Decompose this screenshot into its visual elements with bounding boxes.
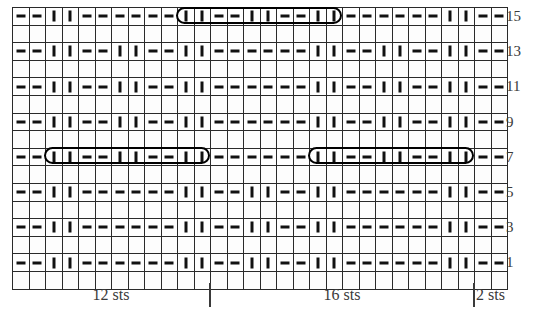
chart-cell[interactable]: [95, 254, 112, 272]
chart-cell[interactable]: [277, 236, 294, 254]
chart-cell[interactable]: [112, 95, 129, 113]
chart-cell[interactable]: [491, 60, 508, 78]
chart-cell[interactable]: [277, 183, 294, 201]
chart-cell[interactable]: [128, 219, 145, 237]
chart-cell[interactable]: [194, 95, 211, 113]
chart-cell[interactable]: [475, 236, 492, 254]
chart-cell[interactable]: [458, 43, 475, 61]
chart-cell[interactable]: [458, 236, 475, 254]
chart-cell[interactable]: [475, 8, 492, 26]
chart-cell[interactable]: [277, 8, 294, 26]
chart-cell[interactable]: [293, 25, 310, 43]
chart-cell[interactable]: [145, 78, 162, 96]
chart-cell[interactable]: [244, 166, 261, 184]
chart-cell[interactable]: [95, 183, 112, 201]
chart-cell[interactable]: [112, 183, 129, 201]
chart-cell[interactable]: [62, 131, 79, 149]
chart-cell[interactable]: [62, 271, 79, 289]
chart-cell[interactable]: [161, 271, 178, 289]
chart-cell[interactable]: [425, 148, 442, 166]
chart-cell[interactable]: [13, 43, 30, 61]
chart-cell[interactable]: [145, 60, 162, 78]
chart-cell[interactable]: [442, 254, 459, 272]
chart-cell[interactable]: [409, 148, 426, 166]
chart-cell[interactable]: [112, 131, 129, 149]
chart-cell[interactable]: [293, 78, 310, 96]
chart-cell[interactable]: [409, 25, 426, 43]
chart-cell[interactable]: [244, 219, 261, 237]
chart-cell[interactable]: [260, 219, 277, 237]
chart-cell[interactable]: [244, 60, 261, 78]
chart-cell[interactable]: [458, 60, 475, 78]
chart-cell[interactable]: [46, 183, 63, 201]
chart-cell[interactable]: [46, 113, 63, 131]
chart-cell[interactable]: [178, 8, 195, 26]
chart-cell[interactable]: [359, 219, 376, 237]
chart-cell[interactable]: [244, 271, 261, 289]
chart-cell[interactable]: [29, 95, 46, 113]
chart-cell[interactable]: [145, 219, 162, 237]
chart-cell[interactable]: [178, 271, 195, 289]
chart-cell[interactable]: [211, 166, 228, 184]
chart-cell[interactable]: [62, 43, 79, 61]
chart-cell[interactable]: [13, 219, 30, 237]
chart-cell[interactable]: [392, 131, 409, 149]
chart-cell[interactable]: [95, 60, 112, 78]
chart-cell[interactable]: [227, 60, 244, 78]
chart-cell[interactable]: [227, 271, 244, 289]
chart-cell[interactable]: [13, 78, 30, 96]
chart-cell[interactable]: [95, 219, 112, 237]
chart-cell[interactable]: [392, 78, 409, 96]
chart-cell[interactable]: [95, 25, 112, 43]
chart-cell[interactable]: [359, 148, 376, 166]
chart-cell[interactable]: [29, 25, 46, 43]
chart-cell[interactable]: [392, 236, 409, 254]
chart-cell[interactable]: [161, 95, 178, 113]
chart-cell[interactable]: [244, 113, 261, 131]
chart-cell[interactable]: [161, 60, 178, 78]
chart-cell[interactable]: [359, 271, 376, 289]
chart-cell[interactable]: [178, 166, 195, 184]
chart-cell[interactable]: [145, 25, 162, 43]
chart-cell[interactable]: [95, 236, 112, 254]
chart-cell[interactable]: [112, 219, 129, 237]
chart-cell[interactable]: [128, 131, 145, 149]
chart-cell[interactable]: [293, 60, 310, 78]
chart-cell[interactable]: [211, 201, 228, 219]
chart-cell[interactable]: [277, 131, 294, 149]
chart-cell[interactable]: [79, 25, 96, 43]
chart-cell[interactable]: [277, 254, 294, 272]
chart-cell[interactable]: [442, 8, 459, 26]
chart-cell[interactable]: [359, 78, 376, 96]
chart-cell[interactable]: [79, 201, 96, 219]
chart-cell[interactable]: [13, 131, 30, 149]
chart-cell[interactable]: [211, 113, 228, 131]
chart-cell[interactable]: [491, 131, 508, 149]
chart-cell[interactable]: [161, 131, 178, 149]
chart-cell[interactable]: [46, 254, 63, 272]
chart-cell[interactable]: [277, 201, 294, 219]
chart-cell[interactable]: [211, 78, 228, 96]
chart-cell[interactable]: [13, 236, 30, 254]
chart-cell[interactable]: [409, 78, 426, 96]
chart-cell[interactable]: [46, 236, 63, 254]
chart-cell[interactable]: [227, 78, 244, 96]
chart-cell[interactable]: [277, 43, 294, 61]
chart-cell[interactable]: [392, 254, 409, 272]
chart-cell[interactable]: [277, 60, 294, 78]
chart-cell[interactable]: [62, 148, 79, 166]
chart-cell[interactable]: [13, 60, 30, 78]
chart-cell[interactable]: [310, 201, 327, 219]
chart-cell[interactable]: [343, 25, 360, 43]
chart-cell[interactable]: [128, 95, 145, 113]
chart-cell[interactable]: [458, 183, 475, 201]
chart-cell[interactable]: [194, 201, 211, 219]
chart-cell[interactable]: [145, 131, 162, 149]
chart-cell[interactable]: [409, 183, 426, 201]
chart-cell[interactable]: [409, 271, 426, 289]
chart-cell[interactable]: [145, 254, 162, 272]
chart-cell[interactable]: [260, 43, 277, 61]
chart-cell[interactable]: [392, 113, 409, 131]
chart-cell[interactable]: [425, 201, 442, 219]
chart-cell[interactable]: [29, 131, 46, 149]
